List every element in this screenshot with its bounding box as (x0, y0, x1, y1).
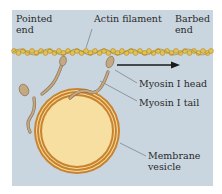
label-pointed-end: Pointed end (16, 13, 52, 35)
membrane-vesicle (34, 88, 120, 174)
actin-filament (12, 49, 214, 56)
label-myosin-i-head: Myosin I head (139, 78, 207, 89)
label-barbed-end: Barbed end (175, 13, 210, 35)
direction-arrow (117, 62, 180, 69)
label-myosin-i-tail: Myosin I tail (139, 97, 199, 108)
label-membrane-vesicle: Membrane vesicle (148, 150, 200, 172)
label-actin-filament: Actin filament (94, 13, 162, 24)
